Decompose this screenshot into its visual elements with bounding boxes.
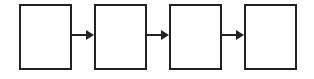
arrow-2-to-3 [147,34,167,36]
arrow-1-to-2 [72,34,92,36]
box-4 [244,4,297,70]
arrow-3-to-4 [222,34,242,36]
box-2 [94,4,147,70]
box-1 [19,4,72,70]
box-3 [169,4,222,70]
